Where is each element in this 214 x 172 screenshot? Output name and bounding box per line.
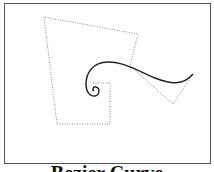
bezier-diagram — [0, 0, 214, 172]
bezier-curve — [86, 62, 193, 96]
control-polygon — [44, 17, 193, 124]
figure-caption: Bezier Curve — [0, 163, 214, 172]
